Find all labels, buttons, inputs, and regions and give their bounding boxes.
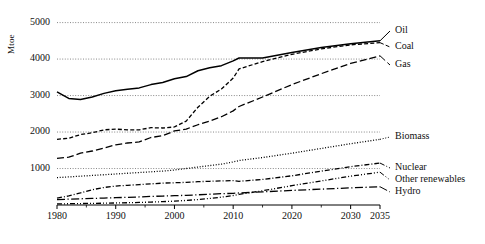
chart-plot-area <box>0 0 485 244</box>
x-axis-tick-label: 2010 <box>213 210 253 221</box>
y-axis-tick-label: 2000 <box>16 125 50 136</box>
x-axis-tick-label: 1980 <box>37 210 77 221</box>
y-axis-tick-label: 1000 <box>16 162 50 173</box>
chart-figure: Mtoe 10002000300040005000198019902000201… <box>0 0 485 244</box>
legend-label-hydro: Hydro <box>395 185 421 196</box>
series-leader-line <box>380 31 390 41</box>
series-leader-line <box>380 187 390 192</box>
legend-label-biomass: Biomass <box>395 130 429 141</box>
series-line-coal <box>57 43 380 140</box>
series-line-hydro <box>57 187 380 200</box>
legend-label-other-renewables: Other renewables <box>395 173 465 184</box>
series-leader-line <box>380 172 390 180</box>
y-axis-tick-label: 4000 <box>16 52 50 63</box>
series-leader-line <box>380 56 390 65</box>
series-line-biomass <box>57 139 380 177</box>
legend-label-nuclear: Nuclear <box>395 161 427 172</box>
series-leader-line <box>380 163 390 168</box>
series-leader-line <box>380 137 390 139</box>
series-leader-line <box>380 43 390 47</box>
x-axis-tick-label: 2035 <box>360 210 400 221</box>
legend-label-gas: Gas <box>395 58 411 69</box>
x-axis-tick-label: 1990 <box>96 210 136 221</box>
x-axis-tick-label: 2020 <box>272 210 312 221</box>
x-axis-tick-label: 2000 <box>154 210 194 221</box>
series-line-gas <box>57 56 380 159</box>
legend-label-oil: Oil <box>395 24 408 35</box>
y-axis-tick-label: 5000 <box>16 16 50 27</box>
legend-label-coal: Coal <box>395 40 414 51</box>
y-axis-tick-label: 3000 <box>16 89 50 100</box>
